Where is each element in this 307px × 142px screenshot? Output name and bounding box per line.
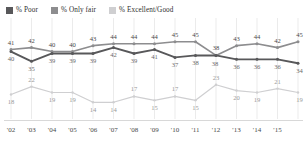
x-axis-tick: '06: [89, 126, 97, 134]
data-point-fair: [297, 40, 300, 43]
value-label-poor: 34: [296, 67, 303, 74]
x-axis-tick: '09: [150, 126, 158, 134]
data-point-good: [215, 84, 217, 86]
data-point-poor: [256, 58, 259, 61]
x-axis-tick: '05: [68, 126, 76, 134]
x-axis-tick: '14: [253, 126, 261, 134]
value-label-poor: 40: [8, 56, 15, 63]
data-point-good: [297, 91, 299, 93]
legend-swatch-fair: [51, 7, 58, 14]
legend-label-good: % Excellent/Good: [119, 6, 174, 14]
data-point-good: [71, 91, 73, 93]
data-point-poor: [112, 46, 115, 49]
value-label-poor: 39: [49, 58, 56, 65]
data-point-good: [194, 99, 196, 101]
value-label-fair: 40: [49, 41, 56, 48]
value-label-fair: 44: [110, 33, 117, 40]
value-label-poor: 36: [274, 64, 281, 71]
value-label-poor: 39: [69, 58, 76, 65]
x-axis: '02'03'04'05'06'07'08'09'10'11'12'13'14'…: [0, 124, 307, 138]
value-label-fair: 44: [131, 33, 138, 40]
value-label-good: 15: [151, 105, 158, 112]
value-label-good: 14: [90, 106, 97, 113]
value-label-good: 17: [131, 86, 138, 93]
value-label-fair: 43: [90, 35, 97, 42]
data-point-fair: [30, 46, 33, 49]
data-point-good: [133, 95, 135, 97]
data-point-poor: [71, 52, 74, 55]
x-axis-tick: '08: [130, 126, 138, 134]
data-point-poor: [297, 62, 300, 65]
data-point-fair: [194, 40, 197, 43]
value-label-fair: 40: [69, 41, 76, 48]
x-axis-tick: '11: [191, 126, 199, 134]
data-point-poor: [276, 58, 279, 61]
chart-legend: % Poor% Only fair% Excellent/Good: [6, 4, 187, 16]
legend-item-poor: % Poor: [6, 6, 38, 14]
data-point-good: [153, 99, 155, 101]
value-label-good: 19: [69, 97, 76, 104]
value-label-good: 15: [192, 105, 199, 112]
value-label-poor: 38: [192, 60, 199, 67]
data-point-poor: [174, 56, 177, 59]
legend-swatch-poor: [6, 7, 13, 14]
value-label-poor: 36: [233, 64, 240, 71]
x-axis-tick: '10: [171, 126, 179, 134]
x-axis-tick: '03: [27, 126, 35, 134]
data-point-good: [174, 95, 176, 97]
value-label-poor: 37: [172, 62, 179, 69]
value-label-good: 20: [233, 95, 240, 102]
data-point-poor: [92, 52, 95, 55]
data-point-poor: [30, 60, 33, 63]
data-point-good: [276, 87, 278, 89]
legend-label-fair: % Only fair: [61, 6, 96, 14]
value-label-good: 19: [49, 97, 56, 104]
data-point-fair: [256, 42, 259, 45]
x-axis-tick: '15: [273, 126, 281, 134]
value-label-fair: 45: [296, 31, 303, 38]
value-label-fair: 45: [172, 31, 179, 38]
data-point-poor: [235, 58, 238, 61]
value-label-poor: 42: [110, 52, 117, 59]
value-label-good: 22: [28, 76, 35, 83]
value-label-good: 19: [296, 97, 303, 104]
value-label-good: 17: [172, 86, 179, 93]
value-label-fair: 44: [151, 33, 158, 40]
data-point-poor: [10, 50, 13, 53]
data-point-good: [30, 85, 32, 87]
data-point-good: [112, 101, 114, 103]
value-label-fair: 45: [192, 31, 199, 38]
data-point-good: [235, 89, 237, 91]
data-point-poor: [153, 48, 156, 51]
value-label-fair: 43: [233, 35, 240, 42]
data-point-good: [92, 101, 94, 103]
value-label-fair: 42: [274, 37, 281, 44]
data-point-fair: [153, 42, 156, 45]
value-label-good: 21: [274, 78, 281, 85]
value-label-poor: 39: [90, 58, 97, 65]
value-label-fair: 44: [254, 33, 261, 40]
value-label-poor: 35: [28, 65, 35, 72]
value-label-good: 23: [213, 74, 220, 81]
legend-item-fair: % Only fair: [51, 6, 96, 14]
value-label-good: 19: [254, 97, 261, 104]
data-point-poor: [133, 52, 136, 55]
x-axis-tick: '13: [232, 126, 240, 134]
data-point-fair: [92, 44, 95, 47]
plot-area: 4142404043444444454538434442454035393939…: [0, 18, 307, 120]
value-label-poor: 39: [131, 58, 138, 65]
x-axis-tick: '02: [7, 126, 15, 134]
data-point-fair: [174, 40, 177, 43]
value-label-fair: 38: [213, 45, 220, 52]
data-point-poor: [51, 52, 54, 55]
data-point-poor: [215, 54, 218, 57]
value-label-fair: 42: [28, 37, 35, 44]
legend-item-good: % Excellent/Good: [109, 6, 174, 14]
value-label-fair: 41: [8, 39, 15, 46]
data-point-poor: [194, 54, 197, 57]
value-label-poor: 36: [254, 64, 261, 71]
value-label-poor: 38: [212, 61, 219, 68]
data-point-good: [51, 91, 53, 93]
value-label-good: 18: [8, 99, 15, 106]
data-point-good: [256, 91, 258, 93]
